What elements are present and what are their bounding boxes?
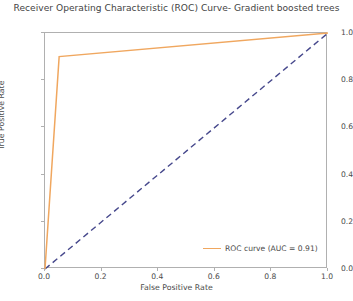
plot-svg [45, 33, 328, 269]
y-axis-label: True Positive Rate [0, 81, 6, 150]
plot-area [44, 32, 327, 268]
legend-label-roc-curve: ROC curve (AUC = 0.91) [225, 244, 318, 253]
x-tick-label-1.0: 1.0 [321, 272, 333, 281]
x-tick-label-0.8: 0.8 [264, 272, 276, 281]
legend-swatch-roc-curve [203, 248, 221, 249]
roc-chart-figure: Receiver Operating Characteristic (ROC) … [0, 0, 353, 301]
x-axis-label: False Positive Rate [0, 283, 353, 292]
legend: ROC curve (AUC = 0.91) [203, 244, 318, 253]
x-tick-label-0.0: 0.0 [38, 272, 50, 281]
chance-diagonal-line [45, 33, 328, 269]
x-tick-label-0.4: 0.4 [151, 272, 163, 281]
chart-title: Receiver Operating Characteristic (ROC) … [0, 3, 353, 13]
x-tick-label-0.6: 0.6 [208, 272, 220, 281]
x-tick-label-0.2: 0.2 [95, 272, 107, 281]
